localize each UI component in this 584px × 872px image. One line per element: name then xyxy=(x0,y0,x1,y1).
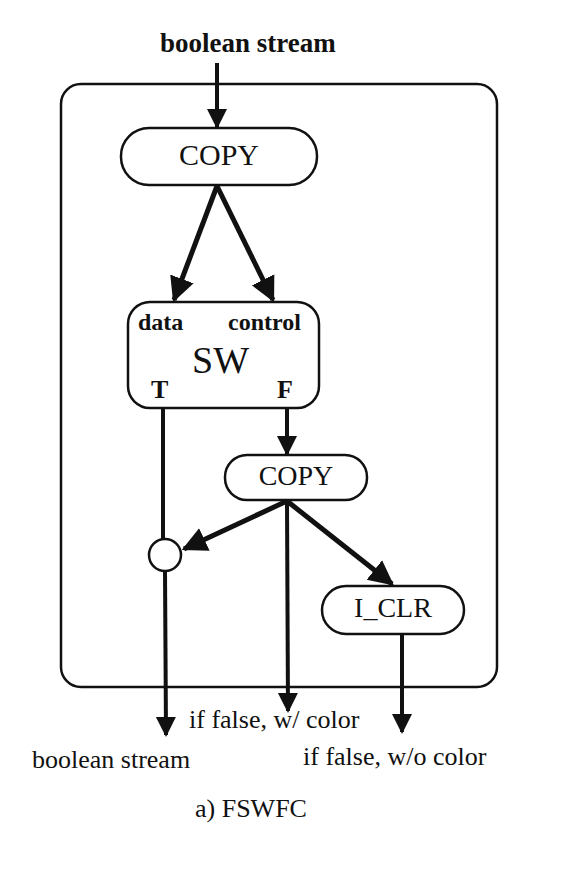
edge-copy-to-iclr xyxy=(287,501,392,584)
output-label-true: boolean stream xyxy=(32,745,190,775)
figure-caption: a) FSWFC xyxy=(195,794,307,824)
edge-copy-to-data xyxy=(174,186,217,300)
merge-node xyxy=(149,539,181,571)
switch-port-control: control xyxy=(228,309,301,336)
edge-copy-to-merge xyxy=(184,501,287,549)
edge-merge-to-output xyxy=(165,571,166,735)
output-label-false-with-color: if false, w/ color xyxy=(189,705,359,735)
switch-port-true: T xyxy=(151,375,168,405)
copy-bottom-label: COPY xyxy=(225,460,367,492)
switch-port-data: data xyxy=(138,309,183,336)
input-label: boolean stream xyxy=(160,28,336,59)
switch-label: SW xyxy=(192,338,249,382)
edge-copy-to-output-color xyxy=(287,501,288,711)
output-label-false-without-color: if false, w/o color xyxy=(303,742,486,772)
fswfc-diagram xyxy=(0,0,584,872)
iclr-label: I_CLR xyxy=(322,592,464,624)
edge-copy-to-control xyxy=(217,186,273,300)
switch-port-false: F xyxy=(277,375,293,405)
copy-top-label: COPY xyxy=(121,138,317,172)
